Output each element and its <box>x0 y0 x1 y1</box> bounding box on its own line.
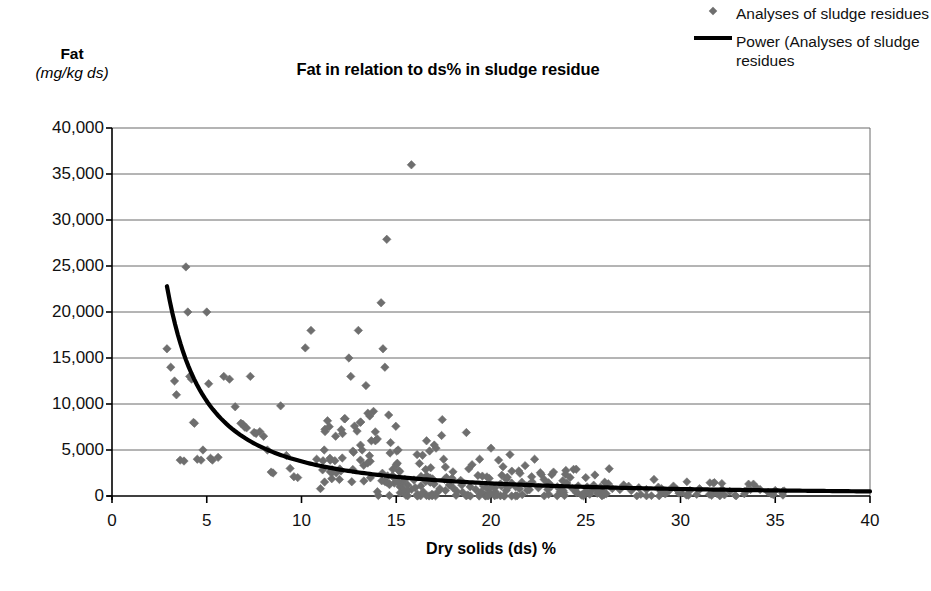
x-tick-label: 10 <box>272 512 332 529</box>
x-tick-label: 35 <box>745 512 805 529</box>
x-axis-tick-labels: 0510152025303540 <box>0 0 931 591</box>
x-axis-title: Dry solids (ds) % <box>112 540 870 558</box>
x-tick-label: 0 <box>82 512 142 529</box>
x-tick-label: 40 <box>840 512 900 529</box>
x-tick-label: 20 <box>461 512 521 529</box>
x-tick-label: 5 <box>177 512 237 529</box>
x-tick-label: 25 <box>556 512 616 529</box>
chart-figure: Analyses of sludge residues Power (Analy… <box>0 0 931 591</box>
x-tick-label: 30 <box>651 512 711 529</box>
x-tick-label: 15 <box>366 512 426 529</box>
